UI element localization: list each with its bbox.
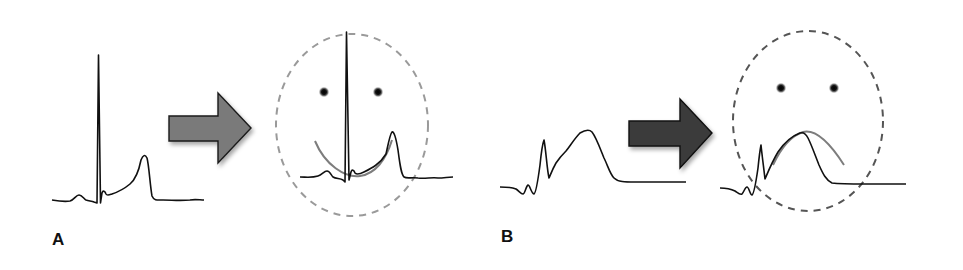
arrow-right-icon xyxy=(629,99,712,168)
eye-right-icon xyxy=(829,83,840,94)
arrow-right-icon xyxy=(169,93,251,163)
ecg-trace-normal-overlay xyxy=(300,32,453,182)
panel-label-a: A xyxy=(52,230,64,250)
diagram-canvas xyxy=(0,0,963,270)
panel-label-b: B xyxy=(501,227,513,247)
eye-left-icon xyxy=(776,83,787,94)
eye-left-icon xyxy=(319,87,330,98)
eye-right-icon xyxy=(373,87,384,98)
mouth-frown-curve xyxy=(773,132,844,165)
panel-a xyxy=(52,32,453,216)
face-outline-smile xyxy=(276,34,428,216)
panel-b xyxy=(500,31,906,211)
ecg-trace-st-elevation-overlay xyxy=(720,133,906,195)
